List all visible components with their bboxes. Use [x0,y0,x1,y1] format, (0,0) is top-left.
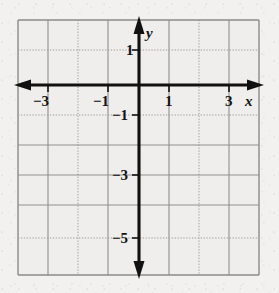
x-tick-label-neg1: −1 [93,94,109,109]
y-tick-label-1: 1 [126,43,134,58]
y-tick-label-neg3: −3 [112,168,128,183]
y-tick-label-neg1: −1 [112,108,128,123]
x-tick-label-neg3: −3 [33,94,49,109]
x-tick-label-3: 3 [225,94,233,109]
x-axis-label: x [245,94,253,109]
y-axis-label: y [146,26,153,41]
x-tick-label-1: 1 [165,94,173,109]
y-tick-label-neg5: −5 [112,231,128,246]
coordinate-plane-figure [0,0,279,293]
